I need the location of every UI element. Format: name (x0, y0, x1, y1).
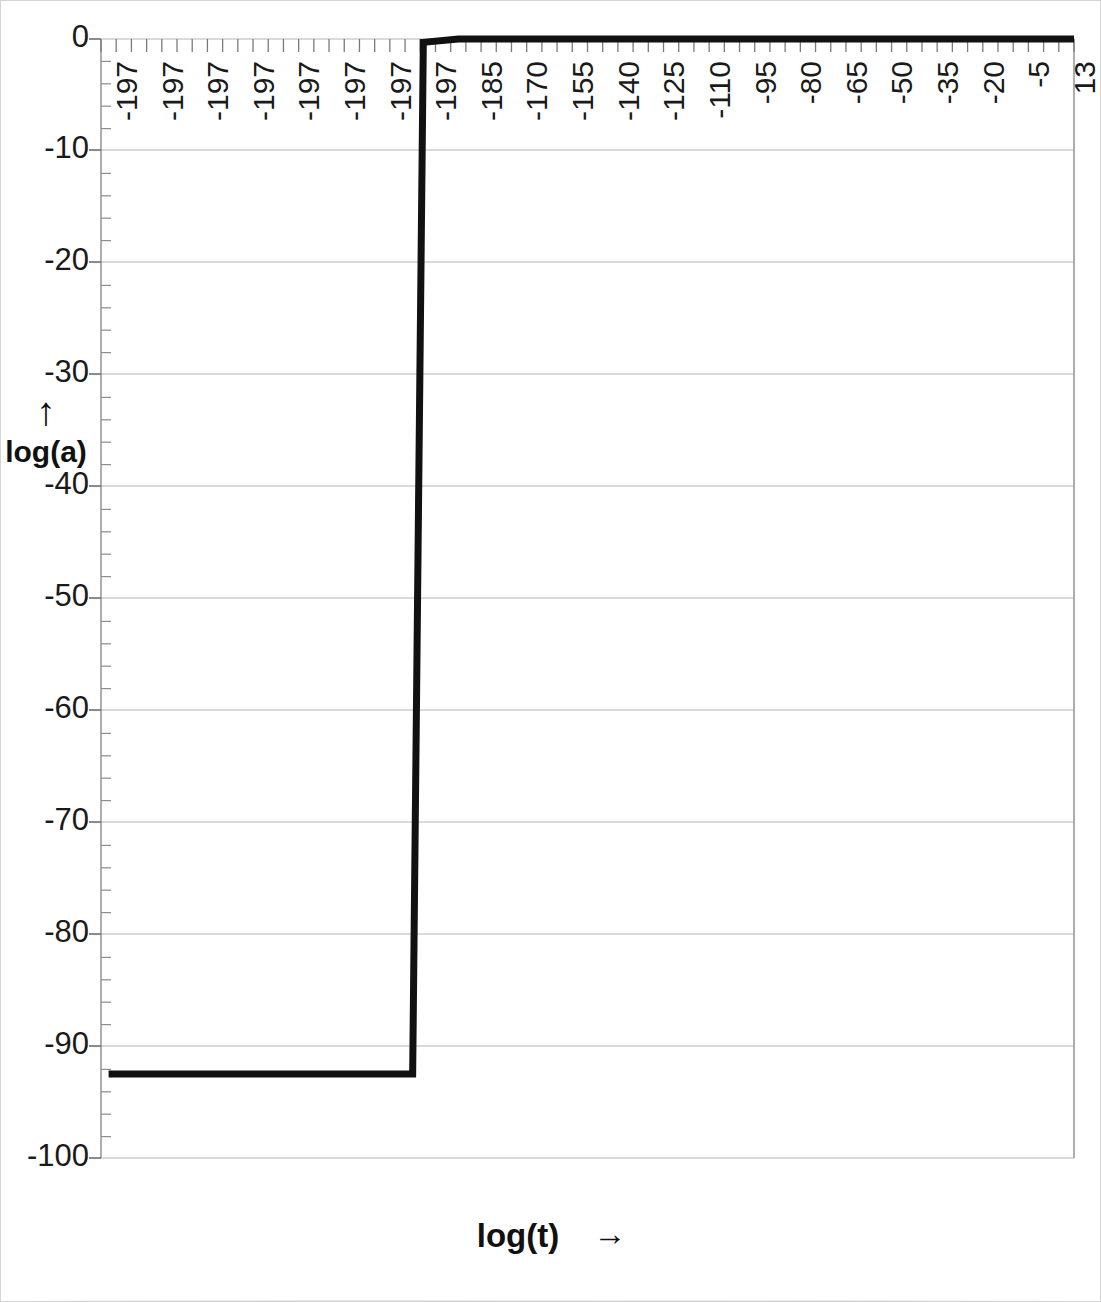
y-axis-title: log(a) (1, 437, 91, 467)
x-tick-label: -65 (842, 61, 872, 104)
x-tick-label: 13 (1070, 61, 1100, 94)
x-tick-label: -110 (705, 61, 735, 119)
chart-page: 0 -10 -20 -30 -40 -50 -60 -70 -80 -90 -1… (0, 0, 1101, 1302)
x-tick-label: -95 (751, 61, 781, 104)
x-tick-label: -80 (796, 61, 826, 104)
x-tick-label: -50 (887, 61, 917, 104)
series-line-log-a (109, 39, 1074, 1074)
y-tick-label-m70: -70 (1, 804, 89, 835)
x-axis-title: log(t) (477, 1217, 559, 1254)
x-axis-arrow-icon: → (593, 1217, 626, 1250)
y-tick-label-m60: -60 (1, 692, 89, 723)
y-tick-label-m40: -40 (1, 468, 89, 499)
plot-svg (1, 1, 1101, 1302)
x-tick-label: -5 (1024, 61, 1054, 88)
x-tick-label: -185 (477, 61, 507, 121)
x-tick-label: -197 (158, 61, 188, 121)
x-axis-title-group: log(t)→ (1, 1217, 1101, 1252)
cropped-caption-glyph (1, 1253, 1101, 1259)
y-tick-label-m30: -30 (1, 356, 89, 387)
x-tick-label: -197 (294, 61, 324, 121)
y-tick-label-m10: -10 (1, 132, 89, 163)
y-tick-label-m90: -90 (1, 1028, 89, 1059)
x-tick-label: -35 (933, 61, 963, 104)
y-tick-label-m20: -20 (1, 244, 89, 275)
x-tick-label: -20 (979, 61, 1009, 104)
y-major-ticks (89, 39, 101, 1158)
x-tick-label: -197 (112, 61, 142, 121)
y-tick-label-m100: -100 (1, 1140, 89, 1171)
gridlines-horizontal (101, 39, 1074, 1158)
x-tick-label: -197 (386, 61, 416, 121)
x-tick-label: -197 (203, 61, 233, 121)
x-tick-label: -197 (431, 61, 461, 121)
y-tick-label-m50: -50 (1, 580, 89, 611)
x-tick-label: -170 (522, 61, 552, 121)
y-minor-ticks (101, 61, 111, 1136)
x-tick-label: -140 (614, 61, 644, 121)
chart-canvas: 0 -10 -20 -30 -40 -50 -60 -70 -80 -90 -1… (1, 1, 1101, 1302)
y-tick-label-m80: -80 (1, 916, 89, 947)
x-tick-label: -155 (568, 61, 598, 121)
x-tick-label: -197 (249, 61, 279, 121)
x-tick-label: -197 (340, 61, 370, 121)
y-axis-arrow-icon: ↑ (1, 391, 91, 431)
x-tick-label: -125 (659, 61, 689, 121)
y-tick-label-0: 0 (1, 21, 89, 52)
